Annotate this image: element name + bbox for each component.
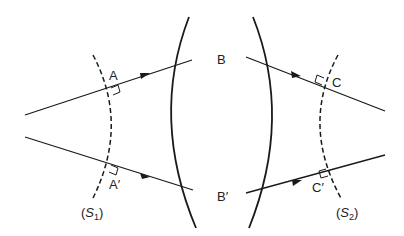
label-B: B [217, 53, 226, 66]
label-A: A [109, 69, 118, 82]
arrow-upper-left [140, 73, 150, 79]
arrow-upper-right [291, 71, 301, 78]
label-B-prime: B′ [217, 190, 228, 203]
lens-right-surface [249, 17, 272, 228]
diagram-canvas [0, 0, 404, 236]
lens-left-surface [171, 17, 196, 228]
arrow-lower-right [292, 180, 302, 186]
right-angle-C [315, 75, 324, 85]
label-S1: (S1) [81, 206, 103, 222]
wavefront-diagram: A A′ B B′ C C′ (S1) (S2) [0, 0, 404, 236]
ray-upper-right [246, 57, 385, 111]
label-A-prime: A′ [109, 178, 120, 191]
label-C: C [332, 76, 341, 89]
label-S2: (S2) [336, 206, 358, 222]
label-C-prime: C′ [312, 181, 324, 194]
